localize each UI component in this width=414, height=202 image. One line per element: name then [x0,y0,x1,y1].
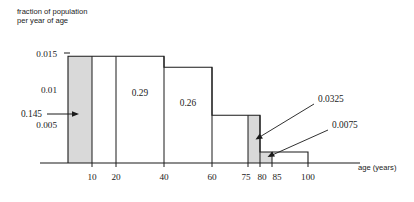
x-tick-label-40: 40 [159,172,169,182]
y-tick-label-001: 0.01 [41,85,57,95]
area-label-026: 0.26 [180,98,197,108]
bar-75-80-fill [248,115,260,163]
x-tick-label-60: 60 [207,172,217,182]
x-tick-label-20: 20 [111,172,121,182]
bar-10-20-fill [92,56,116,163]
bar-40-60-fill [164,67,212,163]
y-axis-title-line1: fraction of population [17,7,88,16]
x-axis-title: age (years) [358,163,397,172]
histogram-figure: fraction of population per year of age 0… [0,0,414,202]
x-tick-label-80: 80 [257,172,267,182]
area-label-0145: 0.145 [21,109,42,119]
bar-20-40-fill [116,56,164,163]
x-tick-label-85: 85 [272,172,282,182]
x-tick-label-100: 100 [301,172,315,182]
bar-60-75-fill [212,115,248,163]
callout-label-00325: 0.0325 [318,94,344,104]
y-tick-label-0005: 0.005 [36,120,57,130]
callout-00325-leader [258,104,314,138]
y-tick-label-0015: 0.015 [36,49,57,59]
x-tick-label-75: 75 [241,172,251,182]
area-label-029: 0.29 [132,88,149,98]
bar-85-100-fill [272,152,308,163]
y-axis-title-line2: per year of age [17,16,68,25]
histogram-svg: fraction of population per year of age 0… [0,0,414,202]
bar-0-10-fill [68,56,92,163]
bar-80-85-fill [260,152,272,163]
callout-label-00075: 0.0075 [332,120,358,130]
x-tick-label-10: 10 [87,172,97,182]
